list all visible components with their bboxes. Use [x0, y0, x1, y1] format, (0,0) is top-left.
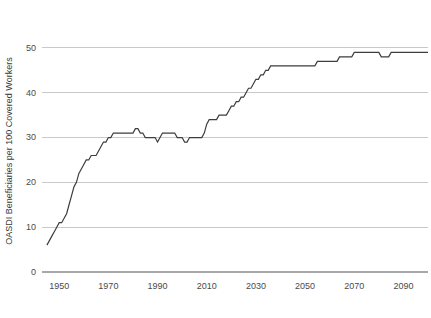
x-tick-label: 2070: [344, 281, 364, 291]
y-axis-tick-labels: 01020304050: [26, 43, 36, 277]
x-tick-label: 2090: [393, 281, 413, 291]
y-tick-label: 30: [26, 132, 36, 142]
data-series-line: [47, 52, 428, 245]
x-tick-label: 1970: [98, 281, 118, 291]
x-axis-tick-labels: 19501970199020102030205020702090: [49, 281, 413, 291]
y-tick-label: 10: [26, 222, 36, 232]
x-tick-label: 2050: [295, 281, 315, 291]
y-tick-label: 40: [26, 88, 36, 98]
line-chart: 01020304050 1950197019902010203020502070…: [0, 0, 431, 318]
y-axis-title: OASDI Beneficiaries per 100 Covered Work…: [4, 57, 14, 245]
y-tick-label: 0: [31, 267, 36, 277]
y-tick-label: 20: [26, 177, 36, 187]
y-tick-label: 50: [26, 43, 36, 53]
gridlines-group: [42, 48, 428, 227]
x-tick-label: 2010: [197, 281, 217, 291]
x-tick-label: 2030: [246, 281, 266, 291]
x-tick-label: 1950: [49, 281, 69, 291]
x-tick-label: 1990: [148, 281, 168, 291]
chart-container: 01020304050 1950197019902010203020502070…: [0, 0, 431, 318]
